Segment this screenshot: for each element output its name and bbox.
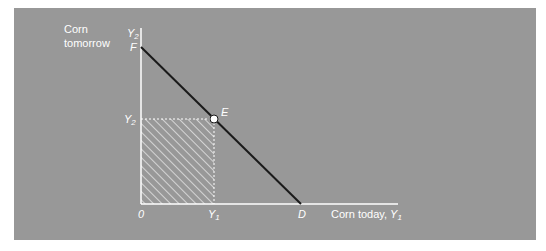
origin-label: 0	[138, 208, 145, 220]
y-axis-title-line1: Corn	[64, 23, 88, 35]
y2-tick-label: Y2	[124, 113, 136, 127]
intertemporal-budget-diagram: Corn tomorrow Y2 F Y2 E 0 Y1 D Corn toda…	[0, 0, 546, 251]
y-axis-symbol: Y2	[127, 27, 139, 41]
figure-page: Corn tomorrow Y2 F Y2 E 0 Y1 D Corn toda…	[0, 0, 546, 251]
point-E-label: E	[221, 106, 229, 118]
intercept-D-label: D	[298, 208, 306, 220]
hatched-consumption-area	[141, 119, 214, 204]
x-axis-title: Corn today, Y1	[331, 208, 402, 222]
y-axis-title-line2: tomorrow	[64, 37, 110, 49]
intercept-F-label: F	[130, 41, 138, 53]
y1-tick-label: Y1	[208, 208, 220, 222]
point-E-marker	[210, 115, 218, 123]
